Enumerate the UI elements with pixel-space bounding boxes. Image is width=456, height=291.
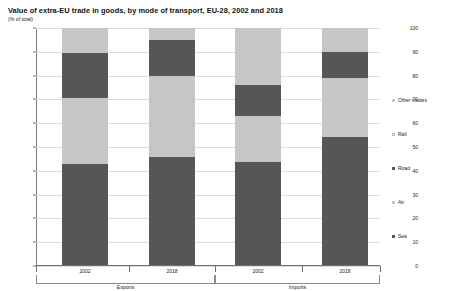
legend-label: Sea bbox=[398, 233, 407, 239]
legend-item-rail[interactable]: Rail bbox=[392, 131, 407, 137]
x-axis-tick-mark bbox=[380, 266, 381, 272]
x-axis-category-label: 2018 bbox=[339, 268, 350, 274]
y-axis-tick-mark bbox=[33, 147, 36, 148]
legend-swatch-icon bbox=[392, 133, 395, 136]
group-bracket bbox=[36, 275, 215, 284]
x-axis-category-label: 2002 bbox=[79, 268, 90, 274]
x-axis-group-label: Exports bbox=[117, 284, 135, 290]
legend-item-road[interactable]: Road bbox=[392, 165, 410, 171]
bar-segment-air[interactable] bbox=[149, 76, 195, 157]
legend-swatch-icon bbox=[392, 235, 395, 238]
bar-segment-road[interactable] bbox=[235, 85, 281, 116]
x-axis-tick-mark bbox=[36, 266, 37, 272]
y-axis-tick-mark bbox=[33, 170, 36, 171]
legend-label: Rail bbox=[398, 131, 407, 137]
x-axis-tick-mark bbox=[129, 266, 130, 272]
x-axis-tick-mark bbox=[302, 266, 303, 272]
chart-container: Value of extra-EU trade in goods, by mod… bbox=[0, 0, 456, 291]
legend-swatch-icon bbox=[392, 99, 395, 102]
y-axis-tick-mark bbox=[33, 242, 36, 243]
x-axis-category-label: 2002 bbox=[252, 268, 263, 274]
bar-segment-other-modes[interactable] bbox=[149, 28, 195, 39]
bar-segment-other-modes[interactable] bbox=[235, 28, 281, 84]
plot-area bbox=[36, 28, 380, 266]
bar-segment-sea[interactable] bbox=[62, 164, 108, 266]
bar-segment-road[interactable] bbox=[322, 52, 368, 78]
y-axis-tick-mark bbox=[33, 75, 36, 76]
x-axis-category-label: 2018 bbox=[166, 268, 177, 274]
y-axis-tick-mark bbox=[33, 218, 36, 219]
bar-segment-road[interactable] bbox=[62, 53, 108, 98]
legend-swatch-icon bbox=[392, 167, 395, 170]
bar-segment-air[interactable] bbox=[322, 78, 368, 138]
bar-segment-other-modes[interactable] bbox=[322, 28, 368, 51]
bar-segment-road[interactable] bbox=[149, 40, 195, 76]
bar-segment-air[interactable] bbox=[235, 116, 281, 162]
legend-swatch-icon bbox=[392, 201, 395, 204]
bar-stack[interactable] bbox=[149, 28, 195, 266]
bar-stack[interactable] bbox=[235, 28, 281, 266]
chart-subtitle: (% of total) bbox=[8, 16, 33, 22]
legend-item-air[interactable]: Air bbox=[392, 199, 404, 205]
bar-stack[interactable] bbox=[322, 28, 368, 266]
legend-label: Other modes bbox=[398, 97, 427, 103]
category-axis: 2002201820022018ExportsImports bbox=[36, 266, 380, 291]
x-axis-tick-mark bbox=[215, 266, 216, 272]
y-axis-tick-mark bbox=[33, 99, 36, 100]
chart-title: Value of extra-EU trade in goods, by mod… bbox=[8, 6, 283, 15]
y-axis-tick-mark bbox=[33, 123, 36, 124]
chart-legend: Other modesRailRoadAirSea bbox=[392, 28, 456, 266]
legend-item-sea[interactable]: Sea bbox=[392, 233, 407, 239]
bar-stack[interactable] bbox=[62, 28, 108, 266]
legend-item-other-modes[interactable]: Other modes bbox=[392, 97, 427, 103]
y-axis-tick-mark bbox=[33, 28, 36, 29]
bar-segment-sea[interactable] bbox=[149, 157, 195, 266]
x-axis-group-label: Imports bbox=[289, 284, 306, 290]
bar-segment-air[interactable] bbox=[62, 98, 108, 163]
bar-segment-sea[interactable] bbox=[322, 137, 368, 266]
legend-label: Air bbox=[398, 199, 404, 205]
bar-segment-other-modes[interactable] bbox=[62, 28, 108, 52]
y-axis-tick-mark bbox=[33, 51, 36, 52]
group-bracket bbox=[215, 275, 380, 284]
legend-label: Road bbox=[398, 165, 410, 171]
y-axis-tick-mark bbox=[33, 194, 36, 195]
bar-segment-sea[interactable] bbox=[235, 162, 281, 266]
